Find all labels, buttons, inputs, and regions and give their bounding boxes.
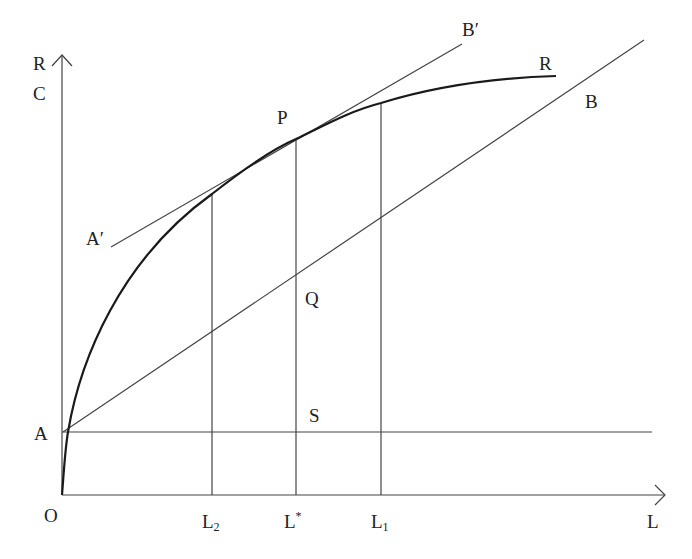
production-diagram: R C O L A P Q S R B A′ B′ L2 L* L1: [0, 0, 692, 559]
origin-label: O: [44, 505, 58, 526]
tangent-line-A-prime-B-prime: [111, 44, 462, 247]
y-axis-label-C: C: [33, 83, 46, 104]
x-axis-label: L: [647, 511, 659, 532]
tangent-label-A-prime: A′: [86, 228, 104, 249]
cost-line-AB: [63, 40, 644, 432]
tick-label-Lstar: L*: [284, 509, 302, 532]
tick-label-L2: L2: [202, 511, 220, 534]
curve-label-R: R: [539, 53, 552, 74]
tangent-label-B-prime: B′: [462, 19, 479, 40]
line-label-B: B: [585, 91, 598, 112]
y-axis-label-R: R: [33, 53, 46, 74]
point-label-A: A: [34, 423, 48, 444]
point-label-S: S: [309, 405, 320, 426]
point-label-P: P: [277, 107, 288, 128]
point-label-Q: Q: [305, 288, 319, 309]
tick-label-L1: L1: [371, 511, 389, 534]
